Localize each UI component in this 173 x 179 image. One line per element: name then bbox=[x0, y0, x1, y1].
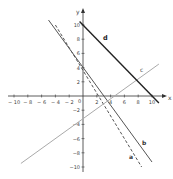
y-tick-label: −4 bbox=[73, 121, 80, 127]
line-b bbox=[49, 20, 153, 162]
x-tick-label: − 2 bbox=[65, 99, 74, 105]
series-lines bbox=[21, 20, 159, 167]
y-tick-label: −8 bbox=[73, 150, 80, 156]
y-tick-label: −2 bbox=[73, 107, 80, 113]
y-tick-label: 8 bbox=[77, 36, 80, 42]
y-tick-label: 10 bbox=[74, 22, 80, 28]
x-tick-label: − 10 bbox=[8, 99, 20, 105]
line-d bbox=[80, 21, 159, 103]
x-tick-label: 2 bbox=[95, 99, 98, 105]
origin-label: 0 bbox=[78, 98, 81, 104]
x-tick-label: − 4 bbox=[51, 99, 60, 105]
x-tick-label: − 6 bbox=[37, 99, 46, 105]
x-tick-label: − 8 bbox=[23, 99, 32, 105]
y-tick-label: −6 bbox=[73, 136, 80, 142]
line-c bbox=[21, 64, 159, 163]
chart-svg: x y 0 − 10− 8− 6− 4− 2246810 108642−2−4−… bbox=[0, 0, 173, 179]
label-d: d bbox=[103, 34, 108, 42]
y-axis-arrow-icon bbox=[81, 8, 85, 13]
y-axis-label: y bbox=[76, 8, 80, 16]
y-tick-label: 2 bbox=[77, 79, 80, 85]
label-c: c bbox=[140, 66, 143, 73]
label-b: b bbox=[142, 139, 147, 146]
x-tick-label: 6 bbox=[123, 99, 126, 105]
y-tick-label: 6 bbox=[77, 50, 80, 56]
x-axis-arrow-icon bbox=[162, 94, 167, 98]
label-a: a bbox=[129, 153, 133, 160]
x-axis-label: x bbox=[168, 94, 172, 101]
x-tick-label: 8 bbox=[137, 99, 140, 105]
coordinate-plane-chart: x y 0 − 10− 8− 6− 4− 2246810 108642−2−4−… bbox=[0, 0, 173, 179]
x-tick-label: 10 bbox=[149, 99, 155, 105]
y-tick-label: −10 bbox=[69, 164, 80, 170]
